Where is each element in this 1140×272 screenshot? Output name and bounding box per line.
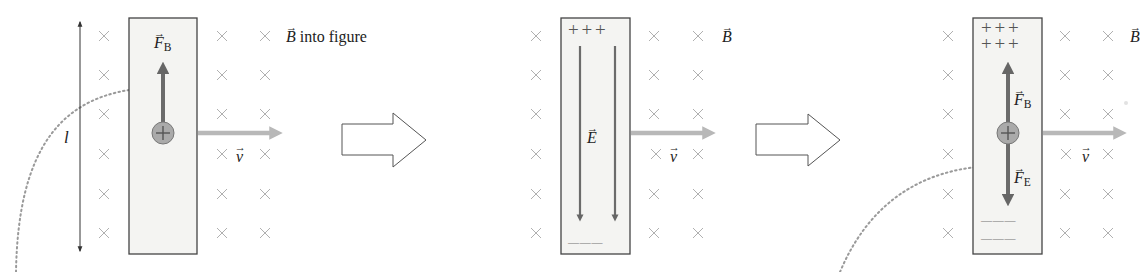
bottom-charges-row-1: — — — bbox=[981, 215, 1015, 226]
positive-charge bbox=[152, 122, 174, 144]
field-symbol: B bbox=[722, 29, 732, 45]
velocity-label: v bbox=[1082, 149, 1089, 165]
transition-arrow-1 bbox=[342, 113, 426, 167]
velocity-label: v bbox=[670, 149, 677, 165]
velocity-symbol: v bbox=[1082, 149, 1089, 165]
velocity-symbol: v bbox=[236, 149, 243, 165]
force-subscript: E bbox=[1024, 176, 1031, 188]
force-symbol: F bbox=[154, 35, 164, 51]
efield-symbol: E bbox=[587, 130, 597, 146]
velocity-symbol: v bbox=[670, 149, 677, 165]
faint-mark bbox=[1124, 101, 1128, 105]
force-subscript: B bbox=[1024, 98, 1032, 110]
bottom-charges-row-2: — — — bbox=[981, 233, 1015, 244]
field-label: B bbox=[1130, 29, 1140, 45]
field-label: B into figure bbox=[286, 29, 367, 45]
top-charges-row-2: + + + bbox=[981, 34, 1018, 53]
force-symbol: F bbox=[1014, 92, 1024, 108]
field-suffix: into figure bbox=[296, 28, 367, 45]
motional-emf-figure: l FB v B into figure + + + — — — E v B +… bbox=[0, 0, 1140, 272]
top-charges: + + + bbox=[568, 20, 605, 39]
panel-2 bbox=[531, 18, 709, 254]
force-symbol: F bbox=[1014, 170, 1024, 186]
field-symbol: B bbox=[286, 29, 296, 45]
field-symbol: B bbox=[1130, 29, 1140, 45]
field-label: B bbox=[722, 29, 732, 45]
efield-label: E bbox=[587, 130, 597, 146]
force-b-label: FB bbox=[154, 35, 171, 51]
force-e-label: FE bbox=[1014, 170, 1031, 186]
bottom-charges: — — — bbox=[568, 237, 602, 248]
length-label: l bbox=[64, 129, 69, 146]
velocity-label: v bbox=[236, 149, 243, 165]
dotted-callout-curve bbox=[840, 166, 993, 272]
transition-arrow-2 bbox=[756, 114, 840, 166]
force-b-label: FB bbox=[1014, 92, 1031, 108]
force-subscript: B bbox=[164, 41, 172, 53]
positive-charge bbox=[997, 122, 1019, 144]
